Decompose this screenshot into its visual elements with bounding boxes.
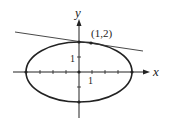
y-axis-arrow-icon bbox=[77, 19, 82, 26]
bottom-vertex-point bbox=[77, 100, 80, 103]
x-axis bbox=[13, 70, 150, 75]
ellipse-diagram: y x (1,2) 1 1 bbox=[0, 0, 169, 125]
y-intercept-point bbox=[77, 40, 80, 43]
origin-point bbox=[77, 70, 80, 73]
x-axis-arrow-icon bbox=[143, 70, 150, 75]
y-axis-label: y bbox=[73, 5, 81, 20]
y-tick-label: 1 bbox=[70, 53, 75, 64]
tangent-point bbox=[89, 41, 92, 44]
left-vertex-point bbox=[24, 70, 27, 73]
x-tick-label: 1 bbox=[88, 75, 93, 86]
x-axis-label: x bbox=[152, 64, 159, 79]
point-label: (1,2) bbox=[91, 27, 112, 40]
right-vertex-point bbox=[130, 70, 133, 73]
